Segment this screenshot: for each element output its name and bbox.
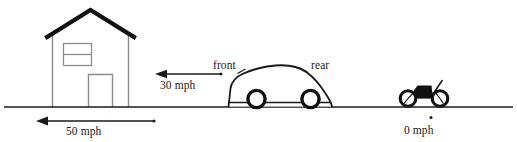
velocity-arrow-car-tail-dot [220, 73, 223, 76]
velocity-dot-motorcycle [430, 116, 433, 119]
velocity-arrow-car-head [155, 70, 167, 78]
speed-label-car: 30 mph [160, 79, 195, 91]
motorcycle-group [400, 80, 448, 119]
velocity-arrow-house-head [36, 117, 48, 126]
house-roof [47, 10, 134, 37]
car-front-label: front [213, 59, 236, 71]
speed-label-house: 50 mph [66, 125, 101, 137]
speed-label-motorcycle: 0 mph [404, 124, 434, 136]
house-door [89, 75, 113, 108]
car-wheel-rear [302, 90, 319, 107]
car-group [229, 65, 333, 107]
velocity-arrow-house-tail-dot [153, 120, 156, 123]
motorcycle-body [415, 86, 434, 97]
car-wheel-front [248, 90, 265, 107]
velocity-arrow-car [155, 70, 223, 78]
physics-diagram: 50 mph 30 mph 0 mph front rear [0, 0, 517, 142]
diagram-canvas [0, 0, 517, 142]
house-group [47, 10, 134, 107]
car-rear-label: rear [311, 59, 329, 71]
